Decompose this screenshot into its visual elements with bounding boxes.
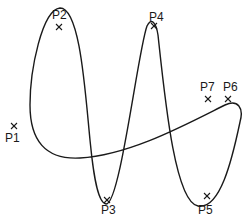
control-point-p6-x-icon xyxy=(225,96,231,102)
control-point-label-p3: P3 xyxy=(101,203,116,217)
control-point-label-p2: P2 xyxy=(52,8,67,22)
control-point-label-p4: P4 xyxy=(149,10,164,24)
control-point-p1-x-icon xyxy=(11,123,17,129)
spline-curve xyxy=(30,8,241,206)
control-point-p2-x-icon xyxy=(56,24,62,30)
control-point-label-p6: P6 xyxy=(223,80,238,94)
control-point-p7-x-icon xyxy=(205,96,211,102)
spline-diagram: P1P2P3P4P5P6P7 xyxy=(0,0,242,218)
control-point-label-p1: P1 xyxy=(5,131,20,145)
control-point-p5-x-icon xyxy=(204,193,210,199)
control-point-label-p5: P5 xyxy=(198,203,213,217)
control-point-label-p7: P7 xyxy=(200,80,215,94)
